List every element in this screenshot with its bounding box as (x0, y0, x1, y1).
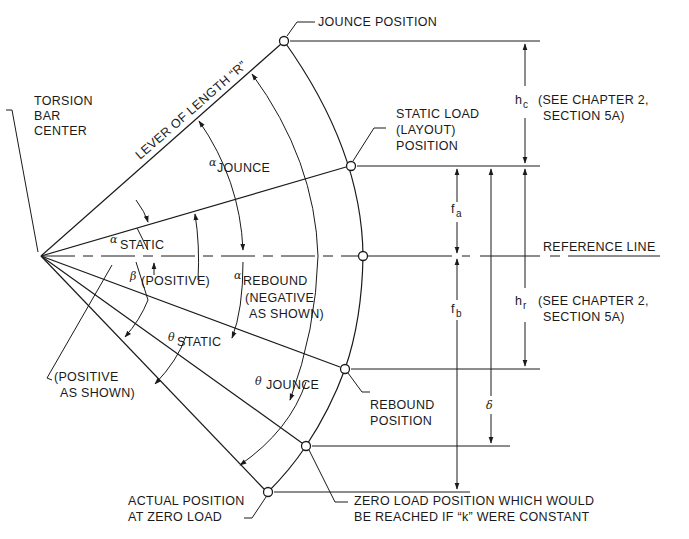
torsion-bar-center-label: TORSION BAR CENTER (34, 94, 93, 138)
actual-zero-position-marker (264, 488, 273, 497)
svg-text:a: a (456, 208, 462, 219)
fb-label: f b (451, 302, 462, 319)
lever-length-label: LEVER OF LENGTH “R” (133, 58, 250, 162)
theta-jounce-arc (252, 74, 318, 400)
alpha-static-note-label: (POSITIVE AS SHOWN) (54, 370, 135, 400)
svg-text:STATIC: STATIC (177, 335, 221, 349)
static-load-label: STATIC LOAD (LAYOUT) POSITION (396, 107, 479, 153)
svg-text:(SEE CHAPTER 2,: (SEE CHAPTER 2, (538, 93, 649, 107)
delta-label: δ (486, 399, 493, 412)
theta-static-label: θ STATIC (168, 331, 221, 349)
theta-static-arc-upper (195, 214, 199, 280)
svg-text:STATIC: STATIC (120, 238, 164, 252)
alpha-jounce-label: α JOUNCE (209, 156, 270, 175)
rebound-position-marker (341, 365, 350, 374)
zero-k-position-marker (302, 442, 311, 451)
lever-jounce-line (41, 44, 281, 256)
svg-text:POSITION: POSITION (396, 139, 458, 153)
alpha-jounce-arc (199, 121, 243, 250)
svg-text:JOUNCE: JOUNCE (266, 378, 319, 392)
svg-text:REBOUND: REBOUND (370, 398, 435, 412)
jounce-position-label: JOUNCE POSITION (318, 15, 437, 29)
svg-text:h: h (515, 294, 522, 308)
svg-text:(SEE CHAPTER 2,: (SEE CHAPTER 2, (538, 294, 649, 308)
actual-zero-label: ACTUAL POSITION AT ZERO LOAD (128, 494, 245, 524)
svg-text:α: α (110, 233, 118, 246)
svg-text:SECTION 5A): SECTION 5A) (543, 310, 625, 324)
position-markers (264, 37, 368, 497)
svg-text:REBOUND: REBOUND (243, 274, 308, 288)
lever-static-line (41, 167, 346, 256)
zero-k-label: ZERO LOAD POSITION WHICH WOULD BE REACHE… (354, 494, 594, 524)
hr-label: h r (SEE CHAPTER 2, SECTION 5A) (515, 294, 649, 324)
svg-text:ACTUAL POSITION: ACTUAL POSITION (128, 494, 245, 508)
jounce-position-marker (280, 37, 289, 46)
alpha-static-label: α STATIC (110, 233, 164, 252)
svg-text:BAR: BAR (34, 109, 61, 123)
svg-text:f: f (451, 302, 455, 316)
svg-text:AT ZERO LOAD: AT ZERO LOAD (128, 510, 222, 524)
static-position-marker (347, 162, 356, 171)
svg-text:f: f (451, 202, 455, 216)
svg-text:AS SHOWN): AS SHOWN) (60, 386, 135, 400)
svg-text:TORSION: TORSION (34, 94, 93, 108)
theta-jounce-label: θ JOUNCE (255, 375, 319, 392)
svg-text:(POSITIVE): (POSITIVE) (141, 274, 210, 288)
svg-text:r: r (523, 300, 527, 311)
svg-text:SECTION 5A): SECTION 5A) (543, 109, 625, 123)
alpha-static-arrow-top (136, 200, 148, 222)
svg-text:POSITION: POSITION (370, 414, 432, 428)
svg-text:BE REACHED IF “k” WERE CONSTAN: BE REACHED IF “k” WERE CONSTANT (354, 510, 590, 524)
svg-text:θ: θ (255, 375, 262, 388)
svg-text:h: h (515, 93, 522, 107)
svg-text:ZERO LOAD POSITION WHICH WOULD: ZERO LOAD POSITION WHICH WOULD (354, 494, 594, 508)
svg-text:(LAYOUT): (LAYOUT) (396, 123, 456, 137)
hc-label: h c (SEE CHAPTER 2, SECTION 5A) (515, 93, 649, 123)
svg-text:α: α (234, 269, 242, 282)
svg-text:AS SHOWN): AS SHOWN) (249, 307, 324, 321)
beta-label: β (POSITIVE) (129, 270, 210, 288)
svg-text:JOUNCE: JOUNCE (217, 161, 270, 175)
svg-text:CENTER: CENTER (34, 124, 87, 138)
svg-text:b: b (456, 308, 462, 319)
torsion-bar-diagram: TORSION BAR CENTER LEVER OF LENGTH “R” J… (0, 0, 689, 539)
svg-text:θ: θ (168, 331, 175, 344)
svg-text:(NEGATIVE: (NEGATIVE (245, 291, 314, 305)
reference-position-marker (359, 252, 368, 261)
svg-text:STATIC LOAD: STATIC LOAD (396, 107, 479, 121)
fa-label: f a (451, 202, 462, 219)
reference-line-label: REFERENCE LINE (543, 240, 656, 254)
svg-text:c: c (523, 99, 528, 110)
lever-tip-arc (268, 41, 363, 492)
svg-text:β: β (129, 270, 137, 283)
theta-jounce-arrow (240, 382, 306, 465)
svg-text:(POSITIVE: (POSITIVE (54, 370, 119, 384)
alpha-rebound-label: α REBOUND (NEGATIVE AS SHOWN) (234, 269, 324, 321)
svg-text:α: α (209, 156, 217, 169)
rebound-position-label: REBOUND POSITION (370, 398, 435, 428)
